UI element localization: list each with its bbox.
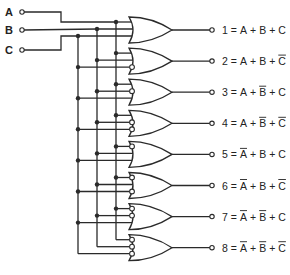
- output-terminal-4: [210, 121, 214, 125]
- plus-sign: +: [250, 86, 256, 98]
- or-gate-8: [129, 235, 172, 261]
- term-b: B: [259, 55, 266, 67]
- junction-dot: [95, 27, 99, 31]
- output-index: 7: [222, 211, 228, 223]
- plus-sign: +: [269, 86, 275, 98]
- equals-sign: =: [231, 86, 237, 98]
- junction-dot: [95, 89, 99, 93]
- output-terminal-3: [210, 90, 214, 94]
- output-index: 3: [222, 86, 228, 98]
- inverter-bubble: [130, 206, 135, 211]
- term-c: C: [278, 24, 286, 36]
- term-b: B: [259, 24, 266, 36]
- plus-sign: +: [250, 24, 256, 36]
- plus-sign: +: [250, 211, 256, 223]
- junction-dot: [114, 175, 118, 179]
- junction-dot: [76, 220, 80, 224]
- wires: [24, 12, 135, 254]
- term-a: A: [240, 117, 247, 129]
- plus-sign: +: [250, 242, 256, 254]
- or-gates: [129, 17, 172, 261]
- term-a: A: [240, 86, 247, 98]
- term-c: C: [278, 148, 286, 160]
- output-index: 1: [222, 24, 228, 36]
- or-gate-7: [129, 204, 172, 230]
- term-c: C: [278, 211, 286, 223]
- inverter-bubble: [130, 65, 135, 70]
- input-label-b: B: [5, 24, 13, 36]
- output-terminal-6: [210, 183, 214, 187]
- plus-sign: +: [250, 180, 256, 192]
- inverter-bubble: [130, 127, 135, 132]
- junction-dot: [76, 189, 80, 193]
- or-gate-5: [129, 141, 172, 167]
- plus-sign: +: [250, 148, 256, 160]
- inverter-bubble: [130, 175, 135, 180]
- output-terminal-2: [210, 59, 214, 63]
- junction-dot: [76, 65, 80, 69]
- plus-sign: +: [269, 242, 275, 254]
- output-index: 6: [222, 180, 228, 192]
- term-a: A: [240, 242, 247, 254]
- junction-dot: [95, 213, 99, 217]
- inverter-bubble: [130, 189, 135, 194]
- inverter-bubble: [130, 89, 135, 94]
- term-b: B: [259, 148, 266, 160]
- equals-sign: =: [231, 211, 237, 223]
- junction-dot: [114, 206, 118, 210]
- plus-sign: +: [250, 117, 256, 129]
- output-terminal-8: [210, 246, 214, 250]
- junction-dot: [76, 34, 80, 38]
- junction-dot: [95, 58, 99, 62]
- input-label-a: A: [5, 6, 13, 18]
- plus-sign: +: [269, 180, 275, 192]
- junction-dot: [114, 113, 118, 117]
- junction-dot: [76, 96, 80, 100]
- output-terminal-1: [210, 28, 214, 32]
- output-terminal-7: [210, 214, 214, 218]
- equals-sign: =: [231, 117, 237, 129]
- term-c: C: [278, 117, 286, 129]
- term-c: C: [278, 180, 286, 192]
- term-a: A: [240, 211, 247, 223]
- junction-dot: [76, 158, 80, 162]
- wire-a-feed: [24, 12, 116, 22]
- plus-sign: +: [269, 117, 275, 129]
- plus-sign: +: [269, 148, 275, 160]
- term-c: C: [278, 55, 286, 67]
- output-index: 8: [222, 242, 228, 254]
- or-gate-3: [129, 79, 172, 105]
- term-a: A: [240, 180, 247, 192]
- term-a: A: [240, 55, 247, 67]
- input-terminal-a: [20, 10, 24, 14]
- plus-sign: +: [269, 55, 275, 67]
- term-c: C: [278, 86, 286, 98]
- inverter-bubble: [130, 144, 135, 149]
- term-b: B: [259, 242, 266, 254]
- inverter-bubble: [130, 213, 135, 218]
- junction-dot: [114, 144, 118, 148]
- term-a: A: [240, 148, 247, 160]
- output-index: 4: [222, 117, 228, 129]
- output-index: 2: [222, 55, 228, 67]
- plus-sign: +: [250, 55, 256, 67]
- output-terminal-5: [210, 152, 214, 156]
- inverter-bubble: [130, 244, 135, 249]
- equals-sign: =: [231, 180, 237, 192]
- term-c: C: [278, 242, 286, 254]
- wire-b-feed: [24, 29, 97, 30]
- input-terminal-c: [20, 48, 24, 52]
- junction-dot: [114, 51, 118, 55]
- or-gate-4: [129, 110, 172, 136]
- equals-sign: =: [231, 24, 237, 36]
- term-b: B: [259, 86, 266, 98]
- junction-dot: [95, 120, 99, 124]
- junction-dot: [114, 20, 118, 24]
- plus-sign: +: [269, 24, 275, 36]
- term-a: A: [240, 24, 247, 36]
- input-terminal-b: [20, 28, 24, 32]
- inverter-bubble: [130, 120, 135, 125]
- equals-sign: =: [231, 242, 237, 254]
- term-b: B: [259, 180, 266, 192]
- inverter-bubble: [130, 237, 135, 242]
